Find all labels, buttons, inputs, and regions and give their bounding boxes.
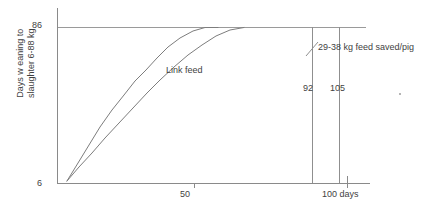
series-line-link-feed	[67, 28, 218, 182]
x-tick-label-50: 50	[180, 189, 190, 199]
chart-container: Days w eaning to slaughter 6-88 kg 86 6 …	[0, 0, 428, 219]
stray-artifact-dot	[399, 93, 401, 95]
chart-plot-area	[0, 0, 428, 219]
annotation-feed-saved: 29-38 kg feed saved/pig	[318, 42, 414, 52]
y-tick-label-6: 6	[37, 178, 42, 188]
x-tick-label-100-days: 100 days	[322, 189, 359, 199]
series-line-standard-feed	[67, 28, 244, 182]
marker-label-day-92: 92	[303, 83, 313, 93]
series-label-link-feed: Link feed	[166, 65, 203, 75]
marker-label-day-105: 105	[330, 83, 345, 93]
y-tick-label-86: 86	[32, 20, 42, 30]
